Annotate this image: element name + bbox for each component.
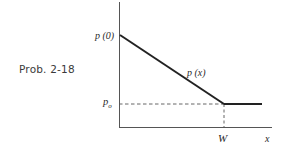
px-label: p (x) <box>186 67 206 79</box>
p0-label: p (0) <box>94 30 115 42</box>
po-label-sub: o <box>108 102 112 110</box>
figure: Prob. 2-18 p (0) p (x) po W x <box>0 0 289 150</box>
po-label: po <box>102 96 112 110</box>
px-sloped-line <box>120 35 224 104</box>
w-label: W <box>218 132 228 144</box>
diagram-plot: p (0) p (x) po W x <box>0 0 289 150</box>
x-axis-label: x <box>264 133 270 144</box>
figure-caption: Prob. 2-18 <box>19 63 75 75</box>
